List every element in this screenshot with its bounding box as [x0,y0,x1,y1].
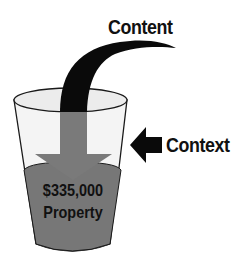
property-value-text: $335,000 [39,181,107,201]
content-label: Content [108,15,172,39]
diagram-canvas [0,0,244,264]
property-label-text: Property [39,203,107,223]
context-label: Context [166,133,229,157]
left-arrow-icon [130,127,162,163]
content-context-diagram: Content Context $335,000 Property [0,0,244,264]
